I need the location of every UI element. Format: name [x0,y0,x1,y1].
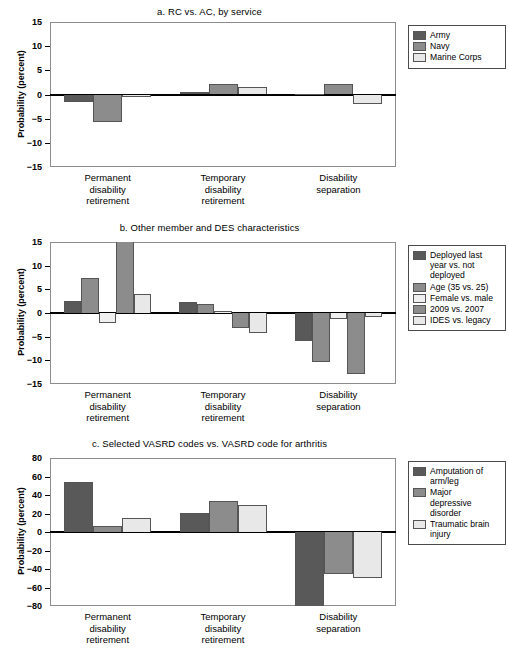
bar [295,94,324,95]
chart-panel-c: c. Selected VASRD codes vs. VASRD code f… [0,432,509,651]
bar [64,301,82,313]
bar [295,532,324,606]
legend-label: Army [430,30,450,40]
bar [238,505,267,532]
bar [197,304,215,313]
legend-item[interactable]: 2009 vs. 2007 [413,304,500,314]
panel-c-title: c. Selected VASRD codes vs. VASRD code f… [0,438,509,449]
panel-a-plot-area [50,22,396,167]
bar [93,526,122,532]
bar [180,92,209,94]
y-axis-tick-label: 15 [2,17,42,27]
y-axis-tick-label: −10 [2,138,42,148]
legend-label: Age (35 vs. 25) [430,282,488,292]
legend-item[interactable]: IDES vs. legacy [413,315,500,325]
y-axis-tick-label: 5 [2,65,42,75]
legend-item[interactable]: Marine Corps [413,52,500,62]
y-axis-tick-label: 10 [2,41,42,51]
bar [116,242,134,313]
y-axis-tick [45,569,50,570]
panel-b-legend: Deployed last year vs. not deployedAge (… [408,245,506,331]
bar [99,313,117,323]
y-axis-tick-label: 0 [2,527,42,537]
legend-label: 2009 vs. 2007 [430,304,484,314]
y-axis-tick [45,514,50,515]
panel-c-plot-area [50,458,396,606]
legend-item[interactable]: Army [413,30,500,40]
legend-color-swatch [413,283,426,292]
y-axis-tick [45,46,50,47]
y-axis-tick [45,119,50,120]
bar [209,501,238,532]
y-axis-tick-label: −20 [2,546,42,556]
bar [64,95,93,102]
chart-panel-b: b. Other member and DES characteristics … [0,220,509,432]
y-axis-tick-label: −10 [2,355,42,365]
y-axis-tick [45,495,50,496]
y-axis-tick [45,266,50,267]
y-axis-tick-label: −5 [2,114,42,124]
bar [232,313,250,328]
y-axis-tick-label: −80 [2,601,42,611]
chart-panel-a: a. RC vs. AC, by service Probability (pe… [0,0,509,220]
bar [93,95,122,123]
legend-color-swatch [413,31,426,40]
legend-label: IDES vs. legacy [430,315,491,325]
bar [214,311,232,313]
panel-b-title: b. Other member and DES characteristics [0,222,509,233]
legend-label: Navy [430,41,450,51]
legend-color-swatch [413,294,426,303]
y-axis-tick-label: 5 [2,284,42,294]
bar [81,278,99,313]
legend-item[interactable]: Major depressive disorder [413,487,500,518]
bar [209,84,238,95]
y-axis-tick-label: 10 [2,261,42,271]
bar [347,313,365,374]
legend-color-swatch [413,42,426,51]
x-axis-group-label: Temporary disability retirement [165,389,280,424]
legend-label: Marine Corps [430,52,482,62]
legend-item[interactable]: Traumatic brain injury [413,519,500,539]
legend-item[interactable]: Amputation of arm/leg [413,466,500,486]
legend-color-swatch [413,467,426,476]
y-axis-tick-label: −60 [2,583,42,593]
legend-item[interactable]: Age (35 vs. 25) [413,282,500,292]
y-axis-tick-label: −15 [2,162,42,172]
legend-item[interactable]: Navy [413,41,500,51]
legend-color-swatch [413,520,426,529]
y-axis-tick-label: 0 [2,308,42,318]
bar [324,84,353,95]
legend-color-swatch [413,316,426,325]
y-axis-tick-label: 20 [2,509,42,519]
y-axis-tick [45,588,50,589]
legend-item[interactable]: Female vs. male [413,293,500,303]
legend-label: Deployed last year vs. not deployed [430,250,482,281]
x-axis-group-label: Disability separation [281,172,396,195]
y-axis-tick-label: −5 [2,332,42,342]
y-axis-tick-label: 40 [2,490,42,500]
bar [330,313,348,319]
bar [134,294,152,313]
legend-label: Traumatic brain injury [430,519,489,539]
bar [122,95,151,98]
x-axis-group-label: Permanent disability retirement [50,611,165,646]
panel-a-legend: ArmyNavyMarine Corps [408,25,506,69]
bar [353,95,382,105]
legend-color-swatch [413,251,426,260]
x-axis-group-label: Disability separation [281,389,396,412]
bar [324,532,353,574]
bar [312,313,330,362]
panel-b-plot-area [50,242,396,384]
bar [365,313,383,317]
x-axis-group-label: Temporary disability retirement [165,611,280,646]
y-axis-tick-label: −15 [2,379,42,389]
legend-label: Female vs. male [430,293,493,303]
y-axis-tick [45,70,50,71]
y-axis-tick [45,143,50,144]
x-axis-group-label: Permanent disability retirement [50,389,165,424]
y-axis-tick [45,289,50,290]
bar [122,518,151,532]
panel-a-title: a. RC vs. AC, by service [0,6,509,17]
legend-color-swatch [413,305,426,314]
legend-item[interactable]: Deployed last year vs. not deployed [413,250,500,281]
